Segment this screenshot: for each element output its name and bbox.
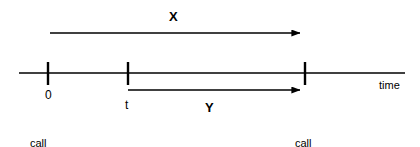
interval-label-y: Y — [205, 101, 214, 116]
annotation-call-starts-line1: call — [30, 137, 57, 147]
annotation-call-ends: call ends — [295, 112, 319, 147]
diagram-canvas — [0, 0, 420, 147]
interval-label-x: X — [169, 10, 178, 25]
tick-label-zero: 0 — [45, 89, 52, 102]
timeline-diagram: X Y 0 t time call starts call ends — [0, 0, 420, 147]
axis-label-time: time — [379, 79, 400, 91]
tick-label-t: t — [125, 99, 128, 112]
annotation-call-starts: call starts — [30, 112, 57, 147]
annotation-call-ends-line1: call — [295, 137, 319, 147]
